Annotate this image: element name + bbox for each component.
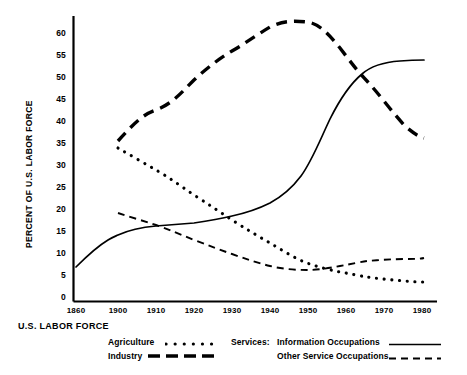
- legend-title: U.S. LABOR FORCE: [18, 321, 109, 331]
- series-line-industry: [118, 21, 424, 141]
- series-line-information: [76, 60, 424, 267]
- series-line-agriculture: [118, 148, 424, 282]
- legend-label-other-service: Other Service Occupations: [277, 351, 389, 361]
- legend-swatch-other-service-thin-dashed: [389, 356, 441, 361]
- legend-swatch-industry-thick-dashed: [147, 353, 221, 359]
- series-line-other-service: [118, 213, 424, 270]
- legend-label-industry: Industry: [108, 351, 142, 361]
- legend-label-information: Information Occupations: [277, 337, 380, 347]
- legend-item-industry: Industry: [108, 351, 142, 361]
- legend-item-agriculture: Agriculture: [108, 337, 154, 347]
- legend-label-services: Services:: [231, 337, 270, 347]
- chart-figure: PERCENT OF U.S. LABOR FORCE 60 55 50 45 …: [0, 0, 467, 375]
- legend-item-other-service: Other Service Occupations: [277, 351, 389, 361]
- legend-item-information: Information Occupations: [277, 337, 380, 347]
- legend-swatch-information-solid: [389, 342, 441, 347]
- legend-label-agriculture: Agriculture: [108, 337, 154, 347]
- plot-area: [0, 0, 467, 375]
- legend-swatch-agriculture-dotted: [165, 341, 221, 347]
